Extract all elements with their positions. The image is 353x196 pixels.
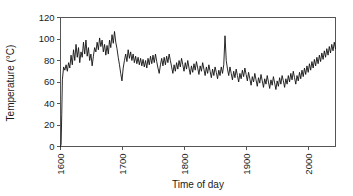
x-tick-label: 1700 [117,154,128,175]
series-line [61,31,336,146]
data-series-group [61,31,336,146]
y-tick-label: 40 [44,98,55,109]
y-tick-label: 60 [44,76,55,87]
axis-tick-marks [57,18,309,151]
y-tick-label: 120 [39,12,55,23]
x-tick-label: 2000 [303,154,314,175]
plot-border [61,18,336,147]
y-tick-label: 80 [44,55,55,66]
temperature-time-series-chart: Temperature (°C) Time of day 02040608010… [0,0,353,196]
y-axis-label: Temperature (°C) [5,45,16,122]
x-tick-label: 1800 [179,154,190,175]
x-axis-tick-labels: 16001700180019002000 [55,154,314,175]
x-axis-label: Time of day [172,179,224,190]
y-axis-label-text: Temperature (°C) [5,45,16,122]
axis-frame [61,18,336,147]
y-tick-label: 20 [44,119,55,130]
x-axis-label-text: Time of day [172,179,224,190]
y-tick-label: 0 [49,141,54,152]
y-axis-tick-labels: 020406080100120 [39,12,55,152]
x-tick-label: 1900 [241,154,252,175]
y-tick-label: 100 [39,33,55,44]
x-tick-label: 1600 [55,154,66,175]
chart-figure: Temperature (°C) Time of day 02040608010… [0,0,353,196]
